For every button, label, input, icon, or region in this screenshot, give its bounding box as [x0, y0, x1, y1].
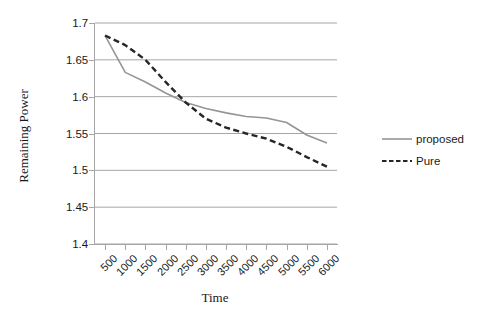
plot-area: [95, 23, 337, 244]
series-line-proposed: [105, 36, 327, 144]
y-tick-label: 1.6: [0, 91, 88, 103]
y-tick-label: 1.65: [0, 54, 88, 66]
y-tick-label: 1.5: [0, 164, 88, 176]
legend-label-proposed: proposed: [416, 133, 464, 145]
x-tick-mark: [226, 245, 227, 250]
legend-swatch-solid-line: [382, 134, 412, 144]
x-tick-mark: [206, 245, 207, 250]
x-tick-mark: [287, 245, 288, 250]
x-tick-mark: [307, 245, 308, 250]
x-tick-mark: [246, 245, 247, 250]
x-axis-title: Time: [0, 290, 430, 306]
x-tick-mark: [145, 245, 146, 250]
x-tick-mark: [186, 245, 187, 250]
x-tick-mark: [266, 245, 267, 250]
x-tick-mark: [125, 245, 126, 250]
x-tick-mark: [105, 245, 106, 250]
legend-item-proposed: proposed: [382, 128, 478, 150]
y-axis-tick-labels: 1.71.651.61.551.51.451.4: [0, 0, 88, 314]
legend-label-pure: Pure: [416, 155, 440, 167]
series-line-pure: [105, 36, 327, 167]
x-tick-mark: [327, 245, 328, 250]
plot-svg: [95, 23, 337, 244]
x-tick-mark: [166, 245, 167, 250]
y-tick-label: 1.45: [0, 201, 88, 213]
y-tick-label: 1.7: [0, 17, 88, 29]
y-tick-label: 1.55: [0, 128, 88, 140]
chart-legend: proposed Pure: [382, 128, 478, 172]
remaining-power-line-chart: 1.71.651.61.551.51.451.4 500100015002000…: [0, 0, 480, 314]
y-axis-line: [94, 23, 95, 245]
legend-swatch-dashed-line: [382, 156, 412, 166]
legend-item-pure: Pure: [382, 150, 478, 172]
x-axis-line: [94, 244, 338, 245]
y-axis-title: Remaining Power: [16, 56, 32, 216]
y-tick-label: 1.4: [0, 238, 88, 250]
